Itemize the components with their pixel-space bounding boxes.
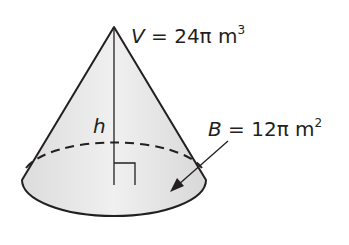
volume-label: V = 24π m3 (131, 24, 245, 46)
base-area-label: B = 12π m2 (208, 117, 322, 139)
height-label: h (93, 116, 106, 136)
